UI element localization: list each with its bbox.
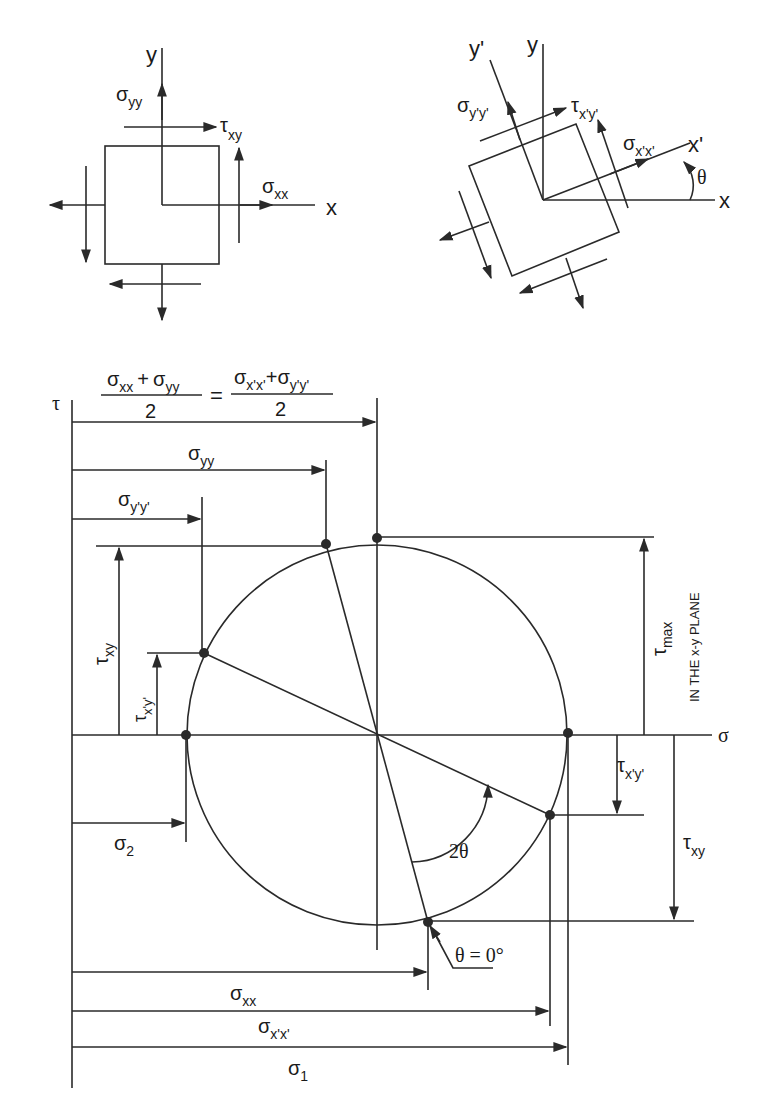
- axis-label-x-prime: x': [688, 132, 703, 157]
- point-tau-max: [372, 533, 382, 543]
- sigma-bottom-rotated-arrow: [566, 258, 583, 308]
- label-dim-sigma-1: σ1: [288, 1057, 308, 1084]
- label-sigma-ypyp: σy'y': [457, 94, 489, 121]
- sigma-ypyp-arrow: [508, 102, 520, 140]
- axis-label-y-rotated-fig: y: [527, 32, 538, 57]
- label-dim-sigma-ypyp: σy'y': [118, 488, 150, 515]
- axis-label-y-prime: y': [469, 36, 484, 61]
- mohr-circle-diagram: τ σ σxx+σyy 2 = σx'x'+σy'y' 2: [52, 366, 729, 1088]
- label-sigma-xpxp: σx'x': [623, 132, 655, 159]
- svg-text:2: 2: [145, 400, 156, 422]
- element-unrotated: y x σyy τxy σxx: [50, 42, 337, 320]
- tau-xpyp-top-arrow: [480, 108, 566, 141]
- theta-zero-arrow: [430, 926, 440, 942]
- label-dim-sigma-xx: σxx: [230, 982, 256, 1009]
- label-theta: θ: [697, 166, 707, 188]
- axis-label-y: y: [146, 42, 157, 67]
- label-dim-tau-xpyp-left: τx'y': [130, 697, 155, 722]
- element-rotated: y' y x x' θ σy'y' τx'y' σx'x': [440, 32, 730, 308]
- sigma-axis-label: σ: [718, 724, 729, 746]
- svg-text:2: 2: [275, 398, 286, 420]
- label-dim-tau-xy-right: τxy: [683, 831, 705, 859]
- label-theta-zero: θ = 0°: [455, 944, 504, 966]
- label-dim-tau-xy-left: τxy: [90, 643, 117, 665]
- label-sigma-xx: σxx: [262, 175, 288, 202]
- svg-text:σxx+σyy: σxx+σyy: [107, 368, 179, 395]
- tau-bottom-rotated-arrow: [520, 259, 607, 293]
- tau-left-rotated-arrow: [459, 191, 491, 278]
- label-dim-tau-xpyp-right: τx'y': [617, 754, 644, 782]
- svg-text:σx'x'+σy'y': σx'x'+σy'y': [234, 366, 309, 393]
- label-dim-sigma-2: σ2: [114, 832, 134, 859]
- label-dim-sigma-yy: σyy: [188, 442, 214, 469]
- label-dim-sigma-xpxp: σx'x': [258, 1015, 290, 1042]
- axis-label-x-rotated-fig: x: [719, 188, 730, 213]
- center-formula: σxx+σyy 2 = σx'x'+σy'y' 2: [101, 366, 333, 422]
- mohr-circle-figure: y x σyy τxy σxx y' y: [0, 0, 767, 1117]
- label-tau-xy: τxy: [220, 114, 242, 143]
- label-tau-xpyp: τx'y': [571, 94, 598, 122]
- sigma-left-rotated-arrow: [440, 222, 489, 240]
- label-dim-tau-max: τmax: [648, 622, 675, 656]
- axis-label-x: x: [326, 195, 337, 220]
- label-sigma-yy: σyy: [116, 83, 142, 110]
- label-two-theta: 2θ: [449, 840, 469, 862]
- tau-max-note: IN THE x-y PLANE: [687, 592, 702, 702]
- tau-axis-label: τ: [52, 392, 60, 414]
- theta-arc: [684, 162, 693, 200]
- svg-text:=: =: [210, 383, 223, 408]
